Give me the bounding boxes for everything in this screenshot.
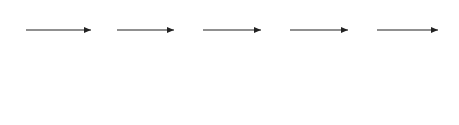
- block-diagram: [0, 0, 459, 125]
